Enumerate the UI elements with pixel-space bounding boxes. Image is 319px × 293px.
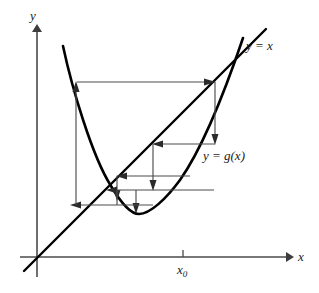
cobweb-figure-svg: y x x0 (0, 0, 319, 293)
y-axis-arrowhead (32, 24, 42, 32)
cobweb-arrowhead-v2-down (150, 180, 157, 191)
axes-group (20, 24, 294, 277)
cobweb-arrowhead-v1-down (212, 134, 219, 145)
x-axis-label: x (297, 249, 304, 264)
x0-tick-label: x0 (176, 262, 188, 279)
cobweb-diagram-figure: y x x0 (0, 0, 319, 293)
identity-line-label: y = x (244, 38, 273, 53)
x0-tick-group: x0 (176, 250, 188, 279)
y-axis-label: y (28, 8, 36, 23)
x-axis-arrowhead (286, 252, 294, 262)
function-curve-label: y = g(x) (201, 148, 245, 163)
